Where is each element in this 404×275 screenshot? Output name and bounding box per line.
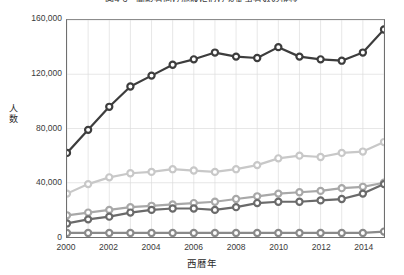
data-point-marker <box>339 58 345 64</box>
data-point-marker <box>148 207 154 213</box>
data-point-marker <box>339 196 345 202</box>
data-point-marker <box>381 229 384 235</box>
data-point-marker <box>106 214 112 220</box>
data-point-marker <box>127 230 133 236</box>
data-point-marker <box>148 169 154 175</box>
data-point-marker <box>233 204 239 210</box>
data-point-marker <box>85 210 91 216</box>
data-point-marker <box>85 181 91 187</box>
y-axis-tick-label: 80,000 <box>2 124 62 133</box>
y-axis-tick-label: 160,000 <box>2 14 62 23</box>
data-point-marker <box>233 196 239 202</box>
data-point-marker <box>67 150 70 156</box>
data-point-marker <box>296 199 302 205</box>
data-point-marker <box>212 199 218 205</box>
x-axis-tick-label: 2006 <box>174 243 214 252</box>
data-point-marker <box>67 191 70 197</box>
x-axis-tick-label: 2004 <box>131 243 171 252</box>
data-point-marker <box>148 230 154 236</box>
data-series <box>67 229 384 236</box>
data-point-marker <box>296 189 302 195</box>
data-point-marker <box>233 54 239 60</box>
y-axis-tick-label: 0 <box>2 233 62 242</box>
data-point-marker <box>85 216 91 222</box>
data-point-marker <box>275 199 281 205</box>
data-point-marker <box>191 56 197 62</box>
data-point-marker <box>67 212 70 218</box>
data-point-marker <box>106 230 112 236</box>
data-point-marker <box>254 55 260 61</box>
data-point-marker <box>360 184 366 190</box>
data-point-marker <box>148 73 154 79</box>
data-point-marker <box>67 220 70 226</box>
data-point-marker <box>275 191 281 197</box>
data-point-marker <box>360 230 366 236</box>
data-point-marker <box>170 62 176 68</box>
x-axis-tick-label: 2008 <box>216 243 256 252</box>
data-point-marker <box>212 207 218 213</box>
data-point-marker <box>106 207 112 213</box>
data-point-marker <box>275 230 281 236</box>
x-axis-tick-label: 2000 <box>46 243 86 252</box>
data-point-marker <box>170 230 176 236</box>
data-point-marker <box>360 191 366 197</box>
y-axis-tick-labels: 040,00080,000120,000160,000 <box>0 0 62 275</box>
data-point-marker <box>339 230 345 236</box>
data-series <box>67 26 384 156</box>
data-point-marker <box>85 230 91 236</box>
data-point-marker <box>212 230 218 236</box>
data-point-marker <box>275 155 281 161</box>
data-point-marker <box>127 210 133 216</box>
data-point-marker <box>381 181 384 187</box>
data-point-marker <box>360 148 366 154</box>
data-point-marker <box>296 153 302 159</box>
plot-area <box>66 19 385 238</box>
y-axis-tick-label: 120,000 <box>2 69 62 78</box>
data-point-marker <box>339 185 345 191</box>
data-point-marker <box>170 205 176 211</box>
data-point-marker <box>254 162 260 168</box>
x-axis-tick-label: 2014 <box>344 243 384 252</box>
data-point-marker <box>212 169 218 175</box>
x-axis-title: 西暦年 <box>0 258 404 269</box>
data-point-marker <box>127 83 133 89</box>
data-point-marker <box>212 49 218 55</box>
data-point-marker <box>233 166 239 172</box>
y-axis-title: 人数 <box>6 104 20 124</box>
data-point-marker <box>296 230 302 236</box>
data-point-marker <box>106 104 112 110</box>
data-point-marker <box>318 154 324 160</box>
x-axis-tick-label: 2010 <box>259 243 299 252</box>
data-point-marker <box>254 193 260 199</box>
data-point-marker <box>127 170 133 176</box>
x-axis-tick-label: 2012 <box>301 243 341 252</box>
data-point-marker <box>191 167 197 173</box>
data-point-marker <box>254 230 260 236</box>
data-point-marker <box>318 230 324 236</box>
x-axis-tick-label: 2002 <box>89 243 129 252</box>
data-point-marker <box>381 139 384 145</box>
data-point-marker <box>318 56 324 62</box>
data-point-marker <box>381 26 384 32</box>
data-point-marker <box>67 230 70 236</box>
data-point-marker <box>191 205 197 211</box>
data-point-marker <box>318 188 324 194</box>
data-point-marker <box>318 197 324 203</box>
data-point-marker <box>360 49 366 55</box>
data-point-marker <box>170 166 176 172</box>
data-point-marker <box>85 127 91 133</box>
data-point-marker <box>106 174 112 180</box>
data-point-marker <box>296 54 302 60</box>
data-point-marker <box>233 230 239 236</box>
data-point-marker <box>254 200 260 206</box>
data-series-layer <box>67 20 384 237</box>
data-point-marker <box>275 44 281 50</box>
data-point-marker <box>191 230 197 236</box>
y-axis-tick-label: 40,000 <box>2 178 62 187</box>
line-chart: 図4-6 高齢者向け施設における従事者数の推移 040,00080,000120… <box>0 0 404 275</box>
data-point-marker <box>339 150 345 156</box>
